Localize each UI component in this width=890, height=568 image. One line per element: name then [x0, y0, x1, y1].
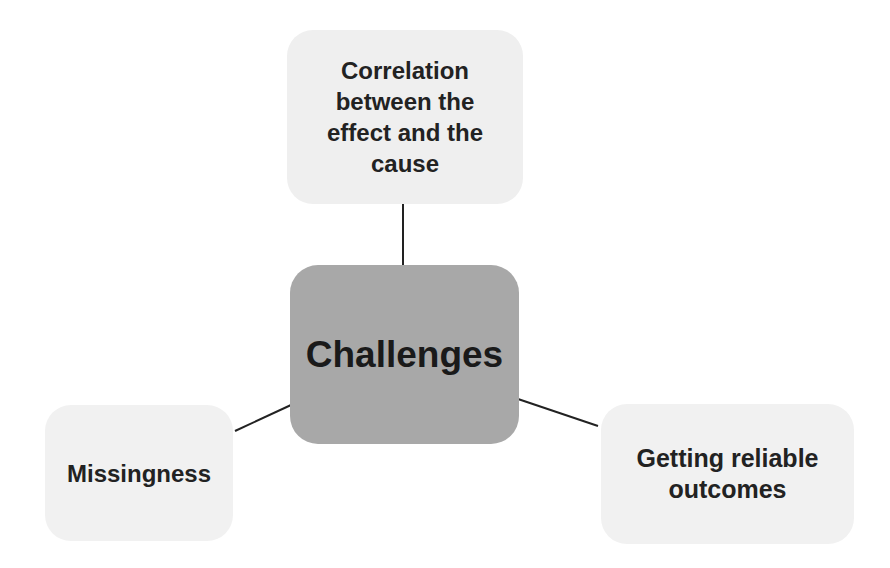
branch-reliable-outcomes: Getting reliable outcomes: [601, 404, 854, 544]
center-node-challenges: Challenges: [290, 265, 519, 444]
branch-reliable-line-2: outcomes: [637, 474, 819, 505]
branch-correlation-line-2: between the: [327, 86, 483, 117]
branch-missingness: Missingness: [45, 405, 233, 541]
connector-left: [235, 405, 291, 431]
branch-correlation-line-3: effect and the: [327, 117, 483, 148]
branch-correlation-line-1: Correlation: [327, 55, 483, 86]
center-node-label: Challenges: [306, 334, 503, 376]
branch-missingness-label: Missingness: [67, 458, 211, 489]
branch-correlation-line-4: cause: [327, 148, 483, 179]
branch-reliable-line-1: Getting reliable: [637, 443, 819, 474]
connector-right: [518, 399, 598, 426]
branch-correlation: Correlation between the effect and the c…: [287, 30, 523, 204]
